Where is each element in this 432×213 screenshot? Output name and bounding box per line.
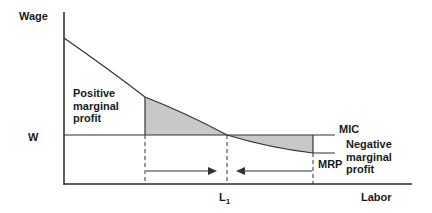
negative-profit-line-1: Negative bbox=[346, 138, 392, 150]
l1-subscript: 1 bbox=[226, 197, 231, 206]
positive-profit-line-1: Positive bbox=[73, 87, 115, 99]
right-arrow-icon bbox=[208, 167, 217, 175]
left-arrow-icon bbox=[236, 167, 245, 175]
positive-profit-line-2: marginal bbox=[73, 100, 119, 112]
wage-level-label: W bbox=[28, 131, 39, 143]
positive-profit-line-3: profit bbox=[73, 112, 101, 124]
l1-label: L1 bbox=[219, 191, 231, 206]
labor-market-diagram: Wage Labor W L1 MIC MRP Positive margina… bbox=[0, 0, 432, 213]
mic-label: MIC bbox=[339, 123, 359, 135]
y-axis-label: Wage bbox=[19, 10, 48, 22]
negative-profit-line-3: profit bbox=[346, 163, 374, 175]
x-axis-label: Labor bbox=[361, 191, 392, 203]
positive-profit-area bbox=[145, 97, 227, 135]
mrp-label: MRP bbox=[318, 158, 342, 170]
negative-profit-area bbox=[227, 135, 313, 153]
negative-profit-line-2: marginal bbox=[346, 151, 392, 163]
